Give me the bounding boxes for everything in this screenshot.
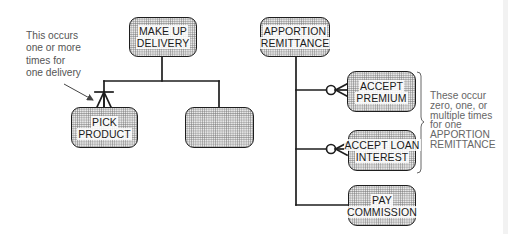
node-label: ACCEPT LOAN bbox=[344, 139, 421, 151]
one-or-more-crowsfoot-icon bbox=[95, 92, 113, 107]
node-label: COMMISSION bbox=[346, 206, 418, 218]
node-pay-commission[interactable]: PAY COMMISSION bbox=[348, 185, 416, 226]
annotation-line: REMITTANCE bbox=[430, 140, 495, 150]
node-accept-loan-interest[interactable]: ACCEPT LOAN INTEREST bbox=[348, 130, 416, 171]
node-label: DELIVERY bbox=[136, 37, 191, 49]
node-label: APPORTION bbox=[263, 25, 328, 37]
annotation-line: one or more bbox=[26, 42, 81, 54]
node-label: PICK bbox=[91, 116, 118, 128]
node-empty[interactable] bbox=[185, 107, 254, 148]
annotation-line: one delivery bbox=[26, 67, 81, 79]
node-apportion-remittance[interactable]: APPORTION REMITTANCE bbox=[260, 17, 330, 57]
annotation-one-or-more: This occurs one or more times for one de… bbox=[26, 30, 81, 79]
node-label: INTEREST bbox=[355, 151, 410, 163]
node-label: MAKE UP bbox=[138, 25, 188, 37]
diagram-canvas: MAKE UP DELIVERY PICK PRODUCT This occur… bbox=[0, 0, 508, 234]
annotation-line: This occurs bbox=[26, 30, 81, 42]
annotation-line: times for bbox=[26, 55, 81, 67]
node-label: REMITTANCE bbox=[260, 37, 330, 49]
zero-or-many-crowsfoot-icon bbox=[327, 84, 348, 96]
node-label: PAY bbox=[371, 194, 393, 206]
node-label: PREMIUM bbox=[355, 92, 407, 104]
node-label: PRODUCT bbox=[77, 128, 132, 140]
node-accept-premium[interactable]: ACCEPT PREMIUM bbox=[347, 71, 416, 112]
node-pick-product[interactable]: PICK PRODUCT bbox=[71, 107, 138, 148]
node-label: ACCEPT bbox=[359, 80, 404, 92]
annotation-zero-one-or-many: These occur zero, one, or multiple times… bbox=[430, 91, 495, 150]
annotation-arrow-icon bbox=[64, 84, 93, 100]
curly-brace-icon bbox=[417, 72, 424, 173]
node-make-up-delivery[interactable]: MAKE UP DELIVERY bbox=[129, 17, 197, 57]
